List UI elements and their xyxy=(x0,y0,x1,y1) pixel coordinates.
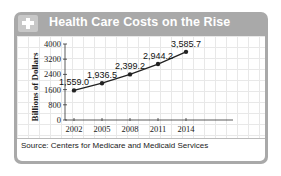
x-tick-label: 2011 xyxy=(150,124,167,134)
data-point xyxy=(184,50,188,54)
data-label: 1,936.5 xyxy=(87,70,117,80)
line-chart: 0800160024003200400020022005200820112014… xyxy=(17,36,265,138)
x-tick-label: 2005 xyxy=(94,124,111,134)
data-label: 3,585.7 xyxy=(171,39,201,49)
y-tick-label: 0 xyxy=(57,115,61,125)
chart-panel: Billions of Dollars 08001600240032004000… xyxy=(17,36,265,161)
divider xyxy=(17,138,265,139)
source-note: Source: Centers for Medicare and Medicai… xyxy=(21,141,208,150)
x-tick-label: 2008 xyxy=(122,124,139,134)
chart-title: Health Care Costs on the Rise xyxy=(49,15,230,29)
chart-header: Health Care Costs on the Rise xyxy=(14,12,268,34)
data-label: 1,559.0 xyxy=(59,77,89,87)
data-point xyxy=(100,81,104,85)
data-label: 2,399.2 xyxy=(115,61,145,71)
y-tick-label: 3200 xyxy=(44,54,61,64)
x-tick-label: 2002 xyxy=(66,124,83,134)
plus-icon xyxy=(18,15,38,32)
chart-card: Health Care Costs on the Rise Billions o… xyxy=(14,12,268,164)
data-label: 2,944.2 xyxy=(143,51,173,61)
data-point xyxy=(72,88,76,92)
data-point xyxy=(128,72,132,76)
y-tick-label: 4000 xyxy=(44,39,61,49)
y-tick-label: 800 xyxy=(48,100,61,110)
data-point xyxy=(156,62,160,66)
x-tick-label: 2014 xyxy=(178,124,196,134)
